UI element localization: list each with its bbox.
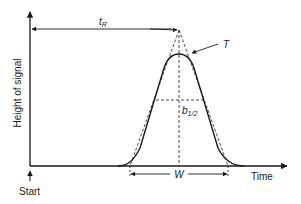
start-label: Start: [19, 186, 40, 197]
x-axis-label: Time: [251, 171, 273, 182]
peak-curve: [118, 54, 244, 166]
half-width-label: b1/2: [182, 105, 197, 117]
retention-time-arrow-right: [150, 29, 177, 30]
peak-width-label: W: [174, 169, 185, 180]
retention-time-label: tR: [99, 16, 107, 28]
tangent-point-label: T: [223, 39, 230, 50]
y-axis-label: Height of signal: [12, 59, 23, 128]
tangent-point-arrow: [192, 44, 218, 53]
chromatogram-peak-diagram: Height of signal Time Start tR T b1/2 W: [0, 0, 301, 204]
